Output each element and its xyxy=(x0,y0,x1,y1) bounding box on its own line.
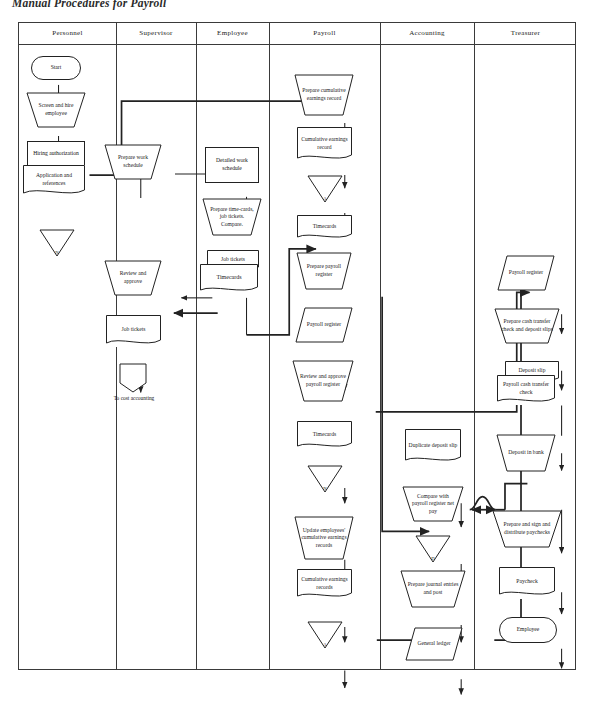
file-triangle-personnel: N xyxy=(39,229,75,257)
node-prepare-cash-transfer: Prepare cash transfer check and deposit … xyxy=(495,309,559,343)
column-header-accounting: Accounting xyxy=(380,23,474,44)
node-paycheck: Paycheck xyxy=(499,567,555,599)
node-general-ledger: General ledger xyxy=(405,627,463,661)
node-prepare-payroll-register-label: Prepare payroll register xyxy=(297,253,351,289)
column-header-payroll: Payroll xyxy=(269,23,380,44)
node-application-and-references: Application and references xyxy=(23,165,85,197)
node-timecards-employee: Timecards xyxy=(200,264,258,294)
node-deposit-in-bank-label: Deposit in bank xyxy=(497,435,555,471)
column-header-supervisor: Supervisor xyxy=(116,23,196,44)
file-triangle-accounting: D xyxy=(415,535,451,563)
node-hiring-authorization-label: Hiring authorization xyxy=(29,150,83,158)
node-prepare-timecards-label: Prepare time-cards, job tickets. Compare… xyxy=(203,199,261,235)
node-payroll-register-treasurer-label: Payroll register xyxy=(497,255,555,291)
node-review-and-approve: Review and approve xyxy=(105,261,161,295)
file-triangle-accounting-label: D xyxy=(415,556,451,561)
node-review-approve-payroll-register: Review and approve payroll register xyxy=(293,361,353,401)
node-prepare-payroll-register: Prepare payroll register xyxy=(297,253,351,289)
column-header-treasurer: Treasurer xyxy=(474,23,577,44)
node-timecards-payroll-label: Timecards xyxy=(297,215,352,241)
header-divider xyxy=(19,44,575,45)
node-job-tickets-supervisor: Job tickets xyxy=(106,315,161,347)
file-triangle-payroll-c-label: A xyxy=(307,642,343,647)
column-divider-5 xyxy=(474,23,475,669)
node-payroll-cash-transfer-check: Payroll cash transfer check xyxy=(497,375,555,405)
node-employee-end-label: Employee xyxy=(501,626,555,634)
node-timecards-employee-label: Timecards xyxy=(200,264,258,294)
column-header-personnel: Personnel xyxy=(19,23,116,44)
node-screen-and-hire-label: Screen and hire employee xyxy=(27,93,85,127)
node-prepare-work-schedule-label: Prepare work schedule xyxy=(105,145,161,179)
node-duplicate-deposit-slip: Duplicate deposit slip xyxy=(405,429,461,465)
node-paycheck-label: Paycheck xyxy=(499,567,555,599)
node-application-and-references-label: Application and references xyxy=(23,165,85,197)
column-divider-2 xyxy=(196,23,197,669)
node-payroll-register-doc: Payroll register xyxy=(295,307,353,343)
node-compare-with-payroll-register-label: Compare with payroll register net pay xyxy=(403,487,463,521)
node-screen-and-hire: Screen and hire employee xyxy=(27,93,85,127)
node-prepare-journal-entries: Prepare journal entries and post xyxy=(401,571,465,607)
node-cumulative-earnings-record: Cumulative earnings record xyxy=(297,127,352,163)
offpage-connector-cost-accounting xyxy=(119,363,147,393)
file-triangle-payroll-b-label: N xyxy=(307,486,343,491)
flowchart-frame: Personnel Supervisor Employee Payroll Ac… xyxy=(18,22,576,670)
node-employee-end: Employee xyxy=(499,617,557,643)
page-title: Manual Procedures for Payroll xyxy=(12,0,166,9)
node-deposit-in-bank: Deposit in bank xyxy=(497,435,555,471)
node-prepare-journal-entries-label: Prepare journal entries and post xyxy=(401,571,465,607)
node-start: Start xyxy=(31,56,81,80)
node-prepare-cumulative-earnings: Prepare cumulative earnings record xyxy=(295,75,353,115)
node-cumulative-earnings-record-label: Cumulative earnings record xyxy=(297,127,352,163)
node-cumulative-earnings-records-2: Cumulative earnings records xyxy=(297,569,352,601)
node-detailed-work-schedule-label: Detailed work schedule xyxy=(207,157,257,172)
column-divider-4 xyxy=(380,23,381,669)
node-prepare-sign-distribute-label: Prepare and sign and distribute paycheck… xyxy=(493,511,561,547)
node-cumulative-earnings-records-2-label: Cumulative earnings records xyxy=(297,569,352,601)
node-payroll-register-doc-label: Payroll register xyxy=(295,307,353,343)
node-review-and-approve-label: Review and approve xyxy=(105,261,161,295)
node-prepare-work-schedule: Prepare work schedule xyxy=(105,145,161,179)
node-start-label: Start xyxy=(33,64,79,72)
file-triangle-payroll-c: A xyxy=(307,621,343,649)
node-timecards-payroll: Timecards xyxy=(297,215,352,241)
file-triangle-payroll-b: N xyxy=(307,465,343,493)
node-general-ledger-label: General ledger xyxy=(405,627,463,661)
file-triangle-payroll-a-label: A xyxy=(307,196,343,201)
file-triangle-payroll-a: A xyxy=(307,175,343,203)
node-timecards-payroll-2: Timecards xyxy=(297,421,352,451)
node-prepare-cash-transfer-label: Prepare cash transfer check and deposit … xyxy=(495,309,559,343)
node-timecards-payroll-2-label: Timecards xyxy=(297,421,352,451)
node-update-cumulative-earnings: Update employees' cumulative earnings re… xyxy=(295,517,353,559)
node-job-tickets-supervisor-label: Job tickets xyxy=(106,315,161,347)
node-detailed-work-schedule: Detailed work schedule xyxy=(205,147,259,183)
column-divider-3 xyxy=(269,23,270,669)
node-hiring-authorization: Hiring authorization xyxy=(27,141,85,167)
node-review-approve-payroll-register-label: Review and approve payroll register xyxy=(293,361,353,401)
node-prepare-timecards: Prepare time-cards, job tickets. Compare… xyxy=(203,199,261,235)
offpage-connector-cost-accounting-label: To cost accounting xyxy=(113,395,155,402)
node-duplicate-deposit-slip-label: Duplicate deposit slip xyxy=(405,429,461,465)
file-triangle-personnel-label: N xyxy=(39,250,75,255)
node-compare-with-payroll-register: Compare with payroll register net pay xyxy=(403,487,463,521)
node-update-cumulative-earnings-label: Update employees' cumulative earnings re… xyxy=(295,517,353,559)
node-payroll-cash-transfer-check-label: Payroll cash transfer check xyxy=(497,375,555,405)
column-header-employee: Employee xyxy=(196,23,269,44)
node-payroll-register-treasurer: Payroll register xyxy=(497,255,555,291)
node-prepare-cumulative-earnings-label: Prepare cumulative earnings record xyxy=(295,75,353,115)
node-prepare-sign-distribute: Prepare and sign and distribute paycheck… xyxy=(493,511,561,547)
